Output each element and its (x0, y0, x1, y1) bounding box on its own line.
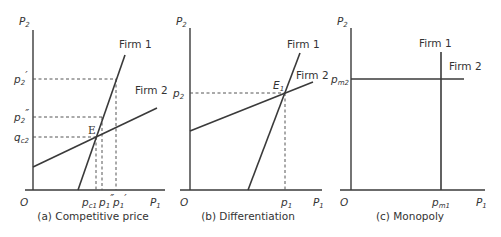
panel-monopoly: P2 P1 O Firm 1 Firm 2 pm2 pm1 (c) Monopo… (330, 15, 487, 222)
firm2-label: Firm 2 (449, 60, 482, 72)
equilibrium-label: E1 (273, 79, 284, 93)
panel-differentiation: P2 P1 O Firm 1 Firm 2 E1 p2 p1 (b) Diffe… (172, 15, 329, 222)
firm1-label: Firm 1 (287, 38, 320, 50)
x-axis-label: P1 (476, 196, 487, 210)
firm2-label: Firm 2 (135, 84, 168, 96)
firm2-label: Firm 2 (296, 69, 329, 81)
caption-c: (c) Monopoly (376, 210, 444, 222)
tick-p2-double-prime: p2″ (13, 107, 29, 125)
firm1-label: Firm 1 (419, 37, 452, 49)
x-axis-label: P1 (313, 196, 324, 210)
tick-p2: p2 (172, 87, 185, 101)
origin-label: O (340, 196, 348, 208)
tick-p1: p1 (280, 196, 292, 210)
firm1-reaction-line (78, 55, 125, 190)
caption-a: (a) Competitive price (37, 210, 148, 222)
origin-label: O (180, 196, 188, 208)
caption-b: (b) Differentiation (201, 210, 295, 222)
firm1-reaction-line (248, 53, 300, 190)
x-axis-label: P1 (150, 196, 161, 210)
tick-p1-double-prime: p1″ (98, 192, 114, 210)
y-axis-label: P2 (337, 15, 348, 29)
tick-p2-prime: p2′ (13, 69, 28, 87)
equilibrium-label: E (88, 124, 96, 136)
y-axis-label: P2 (176, 15, 187, 29)
tick-qc2: qc2 (14, 131, 30, 145)
y-axis-label: P2 (19, 15, 30, 29)
tick-pm1: pm1 (431, 196, 450, 210)
tick-pc1: pc1 (81, 196, 97, 210)
diagram-canvas: P2 P1 O Firm 1 Firm 2 E p2′ p2″ qc2 pc1 … (0, 0, 501, 237)
panel-competitive-price: P2 P1 O Firm 1 Firm 2 E p2′ p2″ qc2 pc1 … (13, 15, 168, 222)
firm2-reaction-line (190, 82, 313, 131)
tick-p1-prime: p1′ (112, 192, 127, 210)
origin-label: O (20, 196, 28, 208)
tick-pm2: pm2 (330, 73, 349, 87)
firm1-label: Firm 1 (119, 38, 152, 50)
